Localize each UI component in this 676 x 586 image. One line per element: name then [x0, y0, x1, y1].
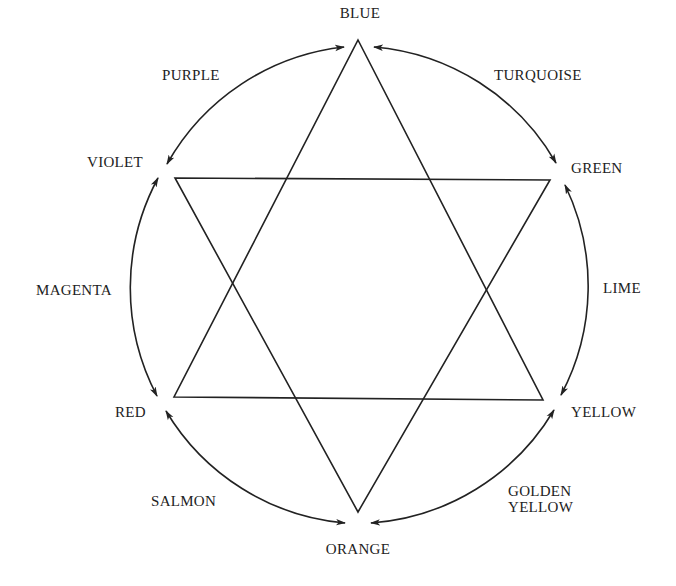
- label-green: GREEN: [571, 160, 623, 177]
- triangle-blue-yellow-red: [174, 40, 543, 400]
- arc-arrow-blue-to-violet: [167, 47, 344, 164]
- label-yellow: YELLOW: [571, 404, 636, 421]
- label-lime: LIME: [603, 280, 641, 297]
- label-magenta: MAGENTA: [36, 282, 112, 299]
- arc-arrow-red-to-violet: [130, 178, 158, 396]
- label-golden-yellow-line1: GOLDEN: [508, 483, 571, 500]
- label-red: RED: [115, 404, 146, 421]
- label-golden-yellow-line2: YELLOW: [508, 499, 573, 516]
- triangle-violet-green-orange: [175, 178, 550, 512]
- label-orange: ORANGE: [326, 541, 390, 558]
- label-salmon: SALMON: [151, 493, 216, 510]
- label-blue: BLUE: [340, 5, 380, 22]
- label-violet: VIOLET: [87, 154, 143, 171]
- arc-arrow-violet-to-blue: [167, 47, 344, 164]
- label-purple: PURPLE: [162, 67, 220, 84]
- label-turquoise: TURQUOISE: [494, 67, 582, 84]
- arc-arrow-green-to-blue: [374, 47, 556, 163]
- arc-arrow-green-to-yellow: [561, 185, 588, 395]
- arc-arrow-blue-to-green: [374, 47, 556, 163]
